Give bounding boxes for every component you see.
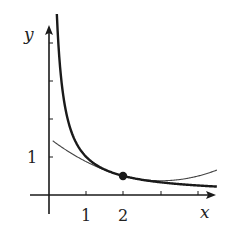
x-tick-label-1: 1 [81,206,91,225]
x-axis-label: x [200,202,210,222]
diagram-canvas: y x 1 2 1 [0,0,236,235]
marked-point [119,172,127,180]
y-axis-label: y [23,24,34,44]
x-tick-label-2: 2 [118,206,128,225]
y-tick-label-1: 1 [27,148,37,167]
reciprocal-curve [57,14,217,187]
